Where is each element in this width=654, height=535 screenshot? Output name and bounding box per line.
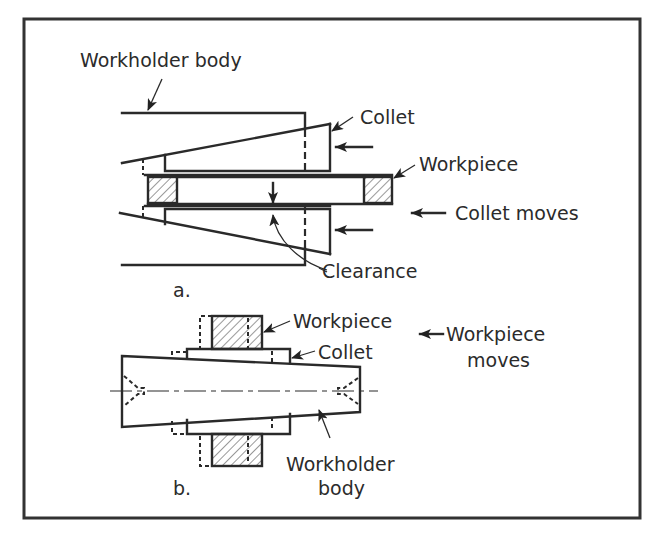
label-workholder-body-a: Workholder body (80, 49, 242, 71)
panel-a-label: a. (173, 279, 191, 301)
clearance-arrow-up (273, 215, 327, 270)
panel-a: Workholder body Collet Workpiece Collet … (80, 49, 579, 301)
workpiece-bottom-dashed-retracted (200, 436, 212, 466)
panel-b-label: b. (173, 477, 191, 499)
label-workpiece-b: Workpiece (293, 310, 392, 332)
workholder-body-top-outline (122, 113, 305, 129)
upper-taper-line (122, 124, 330, 163)
workpiece-left-section (148, 177, 177, 203)
collet-workholder-diagram: Workholder body Collet Workpiece Collet … (0, 0, 654, 535)
label-collet-moves: Collet moves (455, 202, 579, 224)
panel-b: Workpiece Collet Workpiece moves Workhol… (110, 310, 545, 499)
collet-top-dashed-retracted (172, 352, 187, 358)
label-workholder-body-b-line2: body (318, 477, 365, 499)
workpiece-top-section (212, 316, 262, 349)
workpiece-leader-a (394, 165, 415, 178)
workholder-body-bottom-outline (122, 248, 305, 265)
collet-leader-a (332, 117, 353, 131)
label-workholder-body-b-line1: Workholder (286, 453, 395, 475)
workpiece-top-dashed-retracted (200, 316, 212, 349)
label-collet-b: Collet (318, 341, 373, 363)
workpiece-bottom-section (212, 434, 262, 466)
label-workpiece-a: Workpiece (419, 153, 518, 175)
label-clearance: Clearance (322, 260, 418, 282)
workpiece-leader-b (264, 321, 290, 332)
collet-leader-b (292, 351, 315, 358)
label-workpiece-moves-line2: moves (467, 349, 530, 371)
workholder-body-leader-a (148, 79, 162, 110)
lower-taper-line (120, 213, 330, 254)
label-workpiece-moves-line1: Workpiece (446, 323, 545, 345)
label-collet-a: Collet (360, 106, 415, 128)
workpiece-right-section (364, 177, 392, 203)
